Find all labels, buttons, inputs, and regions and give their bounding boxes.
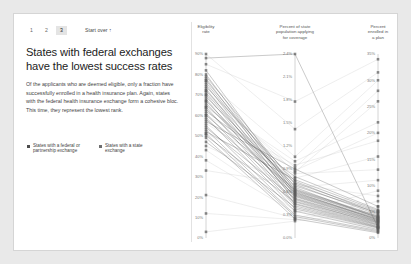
- tick-label: 90%: [195, 51, 203, 56]
- series-point[interactable]: [377, 195, 380, 198]
- series-point[interactable]: [294, 209, 297, 212]
- series-point[interactable]: [377, 100, 380, 103]
- series-point[interactable]: [294, 206, 297, 209]
- legend-label-state: States with a state exchange: [105, 143, 157, 154]
- series-point[interactable]: [377, 168, 380, 171]
- legend-item-federal[interactable]: States with a federal or partnership exc…: [27, 143, 85, 154]
- series-point[interactable]: [377, 90, 380, 93]
- tick-label: 0%: [197, 235, 203, 240]
- series-point[interactable]: [205, 69, 208, 72]
- tick-label: 35%: [367, 51, 375, 56]
- series-point[interactable]: [377, 79, 380, 82]
- series-point[interactable]: [377, 139, 380, 142]
- series-point[interactable]: [205, 122, 208, 125]
- series-point[interactable]: [205, 137, 208, 140]
- axis-title-percent_applying: Percent of state: [280, 24, 311, 29]
- series-point[interactable]: [205, 100, 208, 103]
- parallel-coordinates-chart: Eligibilityrate90%80%70%60%50%40%30%20%1…: [192, 14, 397, 250]
- series-point[interactable]: [294, 166, 297, 169]
- series-point[interactable]: [205, 145, 208, 148]
- axis-title-percent_enrolled: a plan: [372, 35, 385, 40]
- series-point[interactable]: [377, 132, 380, 135]
- series-line[interactable]: [206, 54, 378, 227]
- series-point[interactable]: [377, 189, 380, 192]
- tick-label: 80%: [195, 72, 203, 77]
- series-point[interactable]: [294, 220, 297, 223]
- series-point[interactable]: [294, 155, 297, 158]
- series-point[interactable]: [294, 128, 297, 131]
- axis-title-percent_applying: population applying: [276, 29, 314, 34]
- tick-label: 2.4%: [283, 51, 293, 56]
- step-button-3[interactable]: 3: [56, 26, 67, 35]
- legend-label-federal: States with a federal or partnership exc…: [33, 143, 85, 154]
- series-point[interactable]: [377, 227, 380, 230]
- series-point[interactable]: [205, 132, 208, 135]
- series-point[interactable]: [294, 211, 297, 214]
- series-point[interactable]: [205, 114, 208, 117]
- series-point[interactable]: [205, 53, 208, 56]
- axis-title-percent_enrolled: Percent: [370, 24, 386, 29]
- tick-label: 30%: [195, 174, 203, 179]
- series-line[interactable]: [206, 146, 378, 187]
- series-point[interactable]: [205, 57, 208, 60]
- tick-label: 40%: [195, 154, 203, 159]
- left-panel: 1 2 3 Start over ↑ States with federal e…: [14, 14, 191, 250]
- series-point[interactable]: [205, 106, 208, 109]
- step-navigation[interactable]: 1 2 3 Start over ↑: [26, 24, 179, 36]
- start-over-label: Start over: [85, 27, 108, 33]
- series-point[interactable]: [205, 212, 208, 215]
- series-point[interactable]: [377, 58, 380, 61]
- series-point[interactable]: [294, 198, 297, 201]
- series-point[interactable]: [377, 231, 380, 234]
- series-point[interactable]: [205, 149, 208, 152]
- series-point[interactable]: [294, 160, 297, 163]
- series-point[interactable]: [377, 71, 380, 74]
- series-point[interactable]: [294, 183, 297, 186]
- series-point[interactable]: [377, 121, 380, 124]
- series-point[interactable]: [205, 231, 208, 234]
- series-point[interactable]: [205, 90, 208, 93]
- series-point[interactable]: [294, 201, 297, 204]
- series-point[interactable]: [294, 100, 297, 103]
- series-line[interactable]: [206, 124, 378, 179]
- series-line[interactable]: [206, 91, 378, 172]
- article-body: Of the applicants who are deemed eligibl…: [26, 80, 179, 114]
- series-point[interactable]: [294, 186, 297, 189]
- chart-svg: Eligibilityrate90%80%70%60%50%40%30%20%1…: [192, 14, 397, 251]
- series-point[interactable]: [377, 224, 380, 227]
- step-button-2[interactable]: 2: [41, 26, 52, 35]
- series-line[interactable]: [206, 101, 378, 161]
- series-point[interactable]: [205, 141, 208, 144]
- series-point[interactable]: [377, 155, 380, 158]
- series-point[interactable]: [377, 210, 380, 213]
- start-over-link[interactable]: Start over ↑: [85, 27, 111, 33]
- axis-title-percent_applying: for coverage: [283, 35, 308, 40]
- series-point[interactable]: [294, 191, 297, 194]
- series-point[interactable]: [377, 179, 380, 182]
- up-arrow-icon: ↑: [109, 27, 112, 33]
- page-title: States with federal exchanges have the l…: [26, 46, 179, 73]
- step-button-1[interactable]: 1: [26, 26, 37, 35]
- series-point[interactable]: [294, 188, 297, 191]
- series-point[interactable]: [205, 169, 208, 172]
- series-point[interactable]: [294, 172, 297, 175]
- series-point[interactable]: [377, 205, 380, 208]
- series-point[interactable]: [205, 159, 208, 162]
- legend-item-state[interactable]: States with a state exchange: [99, 143, 157, 154]
- tick-label: 10%: [367, 183, 375, 188]
- series-point[interactable]: [294, 164, 297, 167]
- series-point[interactable]: [294, 53, 297, 56]
- series-point[interactable]: [294, 194, 297, 197]
- series-point[interactable]: [205, 79, 208, 82]
- legend: States with a federal or partnership exc…: [27, 143, 157, 154]
- series-point[interactable]: [205, 94, 208, 97]
- series-point[interactable]: [205, 194, 208, 197]
- axis-title-eligibility_rate: rate: [202, 29, 210, 34]
- series-point[interactable]: [294, 177, 297, 180]
- series-point[interactable]: [205, 63, 208, 66]
- series-line[interactable]: [206, 59, 378, 101]
- series-point[interactable]: [377, 200, 380, 203]
- series-point[interactable]: [294, 169, 297, 172]
- tick-label: 60%: [195, 113, 203, 118]
- series-point[interactable]: [377, 215, 380, 218]
